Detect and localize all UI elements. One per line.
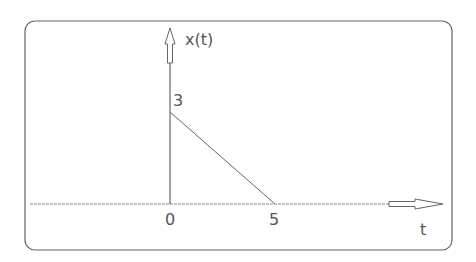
t-axis-arrow-icon xyxy=(389,199,443,209)
x-axis-arrow-icon xyxy=(165,28,175,63)
diagram-frame xyxy=(25,21,452,250)
tick-label-t0: 0 xyxy=(165,212,175,228)
y-axis-label: x(t) xyxy=(185,32,213,48)
tick-label-t5: 5 xyxy=(269,212,279,228)
tick-label-x3: 3 xyxy=(173,93,183,109)
x-axis-label: t xyxy=(420,222,426,238)
signal-ramp-line xyxy=(170,112,275,204)
signal-diagram xyxy=(0,0,476,262)
